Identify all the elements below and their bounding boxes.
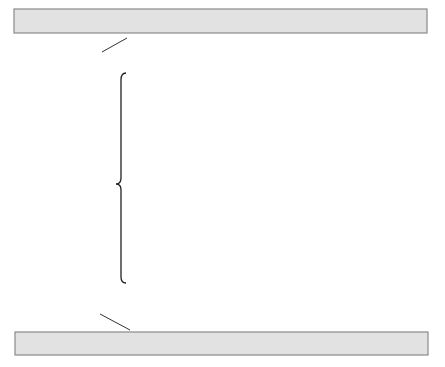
tails-brace: [116, 73, 126, 283]
water-region-top: [14, 9, 427, 33]
polar-heads-bottom-leader: [100, 314, 130, 330]
lipid-bilayer-diagram: [0, 0, 445, 367]
water-region-bottom: [15, 332, 428, 355]
polar-heads-top-leader: [102, 38, 127, 52]
